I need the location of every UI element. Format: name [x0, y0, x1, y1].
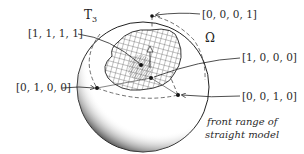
dot-0001 [150, 14, 154, 18]
caption-line-1: front range of [206, 116, 280, 127]
vertex-label-0001: [0, 0, 0, 1] [202, 8, 257, 20]
vertex-label-0100: [0, 1, 0, 0] [16, 81, 71, 93]
sphere-label: T3 [84, 8, 97, 24]
caption-line-2: straight model [205, 129, 279, 140]
vertex-label-0010: [0, 0, 1, 0] [242, 90, 297, 102]
sphere-diagram: T3 Ω [1, 1, 1, 1] [0, 0, 0, 1] [1, 0, 0,… [0, 0, 304, 154]
vertex-label-1111: [1, 1, 1, 1] [28, 27, 83, 39]
dot-1111 [139, 63, 143, 67]
omega-label: Ω [205, 31, 215, 45]
vertex-label-1000: [1, 0, 0, 0] [242, 51, 297, 63]
